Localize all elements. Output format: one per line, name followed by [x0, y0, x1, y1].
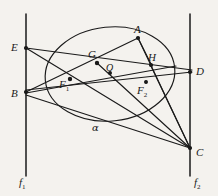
label-G: G [88, 49, 96, 60]
label-F2: F2 [137, 85, 147, 99]
geometry-figure: E B D C A G O H F1 F2 α f1 f2 [0, 0, 218, 196]
label-F2-letter: F [137, 84, 144, 96]
label-f1-index: 1 [22, 183, 26, 191]
label-F1-letter: F [59, 78, 66, 90]
label-A: A [134, 24, 141, 35]
label-H: H [148, 52, 156, 63]
label-f2-index: 2 [197, 183, 201, 191]
point-G [95, 61, 98, 64]
segment-G-C [97, 63, 190, 148]
label-F1: F1 [59, 79, 69, 93]
figure-canvas [0, 0, 218, 196]
label-f2: f2 [194, 177, 201, 191]
point-F2 [145, 81, 148, 84]
point-A [137, 37, 140, 40]
label-B: B [11, 88, 18, 99]
label-C: C [196, 147, 203, 158]
point-H [150, 64, 153, 67]
label-E: E [11, 42, 18, 53]
point-D [189, 71, 192, 74]
label-f1: f1 [19, 177, 26, 191]
label-O: O [106, 63, 113, 73]
label-D: D [196, 66, 204, 77]
label-F1-index: 1 [66, 85, 70, 93]
label-alpha: α [92, 123, 99, 133]
point-B [25, 91, 28, 94]
segment-B-C [26, 95, 190, 148]
point-E [25, 47, 28, 50]
point-C [189, 147, 192, 150]
label-F2-index: 2 [144, 91, 148, 99]
